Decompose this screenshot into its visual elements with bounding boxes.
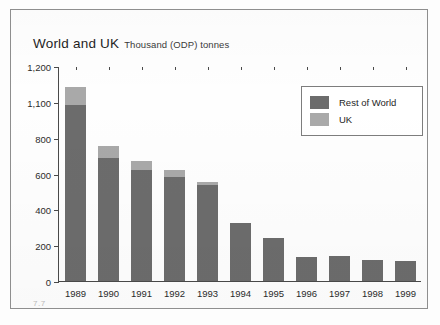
bar-segment-rest-of-world[interactable] [197, 185, 219, 281]
bar-segment-rest-of-world[interactable] [98, 158, 120, 281]
bar-segment-uk[interactable] [65, 87, 87, 105]
bar-segment-uk[interactable] [131, 161, 153, 171]
x-axis-tick-label: 1992 [164, 288, 185, 299]
bar-column[interactable] [197, 68, 219, 281]
x-axis-tick-label: 1993 [197, 288, 218, 299]
x-axis-tick-mark [307, 67, 308, 70]
legend-label: UK [339, 114, 352, 125]
x-axis-tick-mark [406, 67, 407, 70]
bar-column[interactable] [230, 68, 252, 281]
bar-column[interactable] [164, 68, 186, 281]
chart-title-row: World and UKThousand (ODP) tonnes [33, 34, 229, 52]
y-axis-tick-label: 800 [35, 133, 51, 144]
bar-segment-rest-of-world[interactable] [296, 257, 318, 280]
x-axis-tick-label: 1994 [230, 288, 251, 299]
x-axis-tick-label: 1998 [362, 288, 383, 299]
x-axis-tick-mark [208, 67, 209, 70]
x-axis-tick-label: 1999 [395, 288, 416, 299]
x-axis-tick-label: 1995 [263, 288, 284, 299]
x-axis-tick-label: 1997 [329, 288, 350, 299]
chart-subtitle: Thousand (ODP) tonnes [124, 39, 229, 50]
y-axis-tick-label: 1,100 [27, 97, 51, 108]
x-axis-tick-label: 1989 [65, 288, 86, 299]
bar-column[interactable] [65, 68, 87, 281]
bar-segment-rest-of-world[interactable] [329, 256, 351, 280]
figure-frame: World and UKThousand (ODP) tonnes 020040… [10, 9, 428, 309]
y-axis-tick-mark [54, 282, 59, 283]
legend-swatch-uk [310, 113, 329, 126]
bar-segment-rest-of-world[interactable] [263, 238, 285, 281]
bar-segment-rest-of-world[interactable] [65, 105, 87, 281]
bar-segment-uk[interactable] [98, 146, 120, 158]
x-axis-tick-label: 1990 [98, 288, 119, 299]
legend-item[interactable]: Rest of World [302, 94, 422, 111]
bar-segment-rest-of-world[interactable] [164, 177, 186, 281]
x-axis-tick-label: 1996 [296, 288, 317, 299]
x-axis-tick-mark [241, 67, 242, 70]
x-axis-tick-label: 1991 [131, 288, 152, 299]
bar-column[interactable] [131, 68, 153, 281]
x-axis-line [58, 281, 421, 282]
x-axis-tick-mark [142, 67, 143, 70]
figure-number: 7.7 [33, 299, 46, 308]
bar-segment-rest-of-world[interactable] [395, 261, 417, 281]
figure-page: World and UKThousand (ODP) tonnes 020040… [0, 0, 440, 325]
y-axis-tick-label: 0 [46, 277, 51, 288]
x-axis-tick-mark [340, 67, 341, 70]
x-axis-tick-mark [175, 67, 176, 70]
chart-legend: Rest of WorldUK [301, 86, 423, 136]
y-axis-tick-label: 1,200 [27, 62, 51, 73]
x-axis-tick-mark [76, 67, 77, 70]
legend-item[interactable]: UK [302, 111, 422, 128]
x-axis-tick-mark [373, 67, 374, 70]
bar-segment-rest-of-world[interactable] [131, 170, 153, 280]
page-title: World and UK [33, 36, 119, 51]
y-axis-tick-label: 200 [35, 241, 51, 252]
y-axis-tick-label: 400 [35, 205, 51, 216]
x-axis-tick-mark [274, 67, 275, 70]
legend-swatch-rest-of-world [310, 96, 329, 109]
bar-segment-rest-of-world[interactable] [230, 223, 252, 280]
legend-label: Rest of World [339, 97, 396, 108]
bar-column[interactable] [98, 68, 120, 281]
y-axis-tick-label: 600 [35, 169, 51, 180]
bar-column[interactable] [263, 68, 285, 281]
bar-segment-rest-of-world[interactable] [362, 260, 384, 281]
x-axis-tick-mark [109, 67, 110, 70]
